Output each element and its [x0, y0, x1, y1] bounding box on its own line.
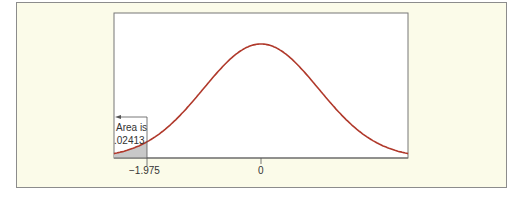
- area-label-value: .02413: [114, 136, 145, 146]
- area-label-line1: Area is: [116, 123, 147, 133]
- plot-area: [114, 13, 408, 158]
- tick-label-neg: −1.975: [129, 166, 160, 176]
- tick-label-zero: 0: [258, 166, 264, 176]
